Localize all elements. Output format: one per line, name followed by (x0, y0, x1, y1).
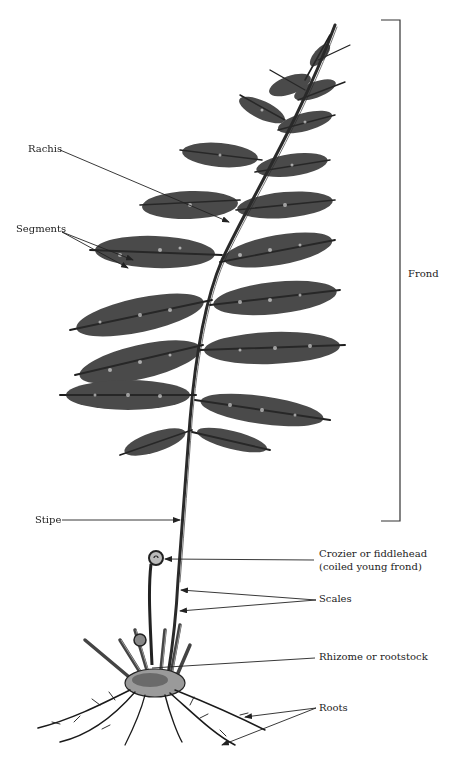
scales-leader-1 (181, 590, 316, 600)
frond-bracket (381, 20, 400, 521)
label-crozier: Crozier or fiddlehead (319, 548, 427, 560)
scales-leader-2 (180, 600, 316, 611)
label-frond: Frond (408, 268, 439, 280)
crozier-leader (165, 559, 314, 560)
label-roots: Roots (319, 702, 348, 714)
frond-foliage (66, 40, 341, 461)
crozier (149, 551, 163, 665)
label-segments: Segments (16, 223, 66, 235)
rhizome-leader (152, 658, 315, 668)
label-rachis: Rachis (28, 143, 62, 155)
label-crozier-subtitle: (coiled young frond) (319, 561, 422, 573)
label-scales: Scales (319, 593, 352, 605)
fern-diagram: Rachis Segments Frond Stipe Crozier or f… (0, 0, 451, 762)
label-rhizome: Rhizome or rootstock (319, 651, 428, 663)
second-fiddlehead (134, 634, 146, 646)
label-stipe: Stipe (35, 514, 61, 526)
fern-illustration (0, 0, 451, 762)
roots (38, 690, 265, 745)
